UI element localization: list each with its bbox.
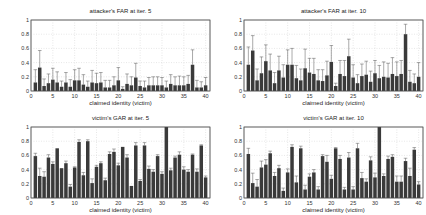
bar bbox=[156, 156, 159, 198]
x-tick-label: 25 bbox=[350, 200, 356, 206]
x-tick-label: 20 bbox=[328, 200, 334, 206]
y-tick-label: 0.4 bbox=[21, 60, 29, 66]
x-tick-label: 30 bbox=[372, 200, 378, 206]
bar bbox=[382, 77, 385, 91]
bar bbox=[138, 181, 141, 198]
bar bbox=[73, 80, 76, 91]
bar bbox=[143, 87, 146, 91]
y-tick-label: 0.6 bbox=[21, 152, 29, 158]
x-tick-label: 0 bbox=[242, 93, 245, 99]
x-tick-label: 0 bbox=[242, 200, 245, 206]
x-tick-label: 5 bbox=[51, 93, 54, 99]
bar bbox=[290, 147, 293, 198]
bar bbox=[316, 80, 319, 91]
bar bbox=[103, 87, 106, 91]
bar bbox=[200, 87, 203, 91]
chart-panel-gar-iter5: victim's GAR at iter. 500.20.40.60.81051… bbox=[0, 107, 213, 215]
x-tick-label: 25 bbox=[137, 93, 143, 99]
bar bbox=[386, 159, 389, 198]
bar bbox=[178, 85, 181, 91]
x-tick-label: 30 bbox=[372, 93, 378, 99]
bar bbox=[42, 86, 45, 91]
bar bbox=[264, 165, 267, 198]
bar bbox=[160, 85, 163, 91]
x-tick-label: 10 bbox=[72, 200, 78, 206]
bar bbox=[251, 183, 254, 198]
bar bbox=[316, 189, 319, 198]
bar bbox=[130, 85, 133, 91]
bar bbox=[295, 182, 298, 198]
chart-title: victim's GAR at iter. 10 bbox=[303, 115, 364, 121]
x-tick-label: 15 bbox=[93, 93, 99, 99]
bar bbox=[356, 83, 359, 91]
bar bbox=[125, 84, 128, 91]
bar bbox=[138, 86, 141, 91]
chart-panel-gar-iter10: victim's GAR at iter. 1000.20.40.60.8105… bbox=[213, 107, 426, 215]
x-tick-label: 15 bbox=[306, 93, 312, 99]
bar bbox=[95, 167, 98, 198]
bar bbox=[34, 156, 37, 198]
x-tick-label: 35 bbox=[394, 200, 400, 206]
bar bbox=[195, 172, 198, 198]
bar bbox=[373, 177, 376, 198]
bar bbox=[303, 68, 306, 91]
bar bbox=[112, 85, 115, 91]
x-tick-label: 15 bbox=[306, 200, 312, 206]
bar bbox=[255, 187, 258, 198]
bar bbox=[386, 78, 389, 91]
bar bbox=[64, 163, 67, 198]
bar bbox=[378, 127, 381, 198]
bar bbox=[151, 172, 154, 198]
y-tick-label: 1 bbox=[239, 17, 242, 23]
bar bbox=[165, 127, 168, 198]
bar bbox=[200, 145, 203, 198]
bar bbox=[338, 159, 341, 198]
bar bbox=[413, 150, 416, 198]
bar bbox=[130, 186, 133, 198]
bar bbox=[277, 70, 280, 91]
chart-svg: attacker's FAR at iter. 500.20.40.60.810… bbox=[0, 0, 213, 108]
bar bbox=[108, 154, 111, 198]
bar bbox=[77, 142, 80, 198]
bar bbox=[417, 185, 420, 198]
bar bbox=[404, 34, 407, 91]
bar bbox=[195, 87, 198, 91]
bar bbox=[312, 74, 315, 91]
bar bbox=[268, 70, 271, 91]
bar bbox=[156, 85, 159, 91]
chart-svg: victim's GAR at iter. 1000.20.40.60.8105… bbox=[213, 107, 426, 215]
bar bbox=[117, 165, 120, 198]
bar bbox=[360, 178, 363, 198]
bar bbox=[117, 80, 120, 91]
bar bbox=[86, 141, 89, 198]
bar bbox=[295, 78, 298, 91]
bar bbox=[169, 170, 172, 198]
x-tick-label: 5 bbox=[264, 200, 267, 206]
bar bbox=[60, 87, 63, 91]
bar bbox=[395, 76, 398, 91]
bar bbox=[182, 170, 185, 198]
bar bbox=[312, 172, 315, 198]
bar bbox=[391, 74, 394, 91]
bar bbox=[351, 189, 354, 198]
bar bbox=[299, 148, 302, 198]
chart-title: attacker's FAR at iter. 10 bbox=[301, 8, 367, 14]
x-tick-label: 10 bbox=[285, 200, 291, 206]
bar bbox=[399, 74, 402, 91]
bar bbox=[321, 81, 324, 91]
bar bbox=[191, 155, 194, 198]
x-tick-label: 5 bbox=[264, 93, 267, 99]
y-tick-label: 1 bbox=[26, 17, 29, 23]
bar bbox=[404, 161, 407, 198]
bar bbox=[330, 62, 333, 91]
y-tick-label: 0.8 bbox=[234, 31, 242, 37]
bar bbox=[86, 87, 89, 91]
y-tick-label: 0.2 bbox=[21, 181, 29, 187]
bar bbox=[69, 187, 72, 198]
bar bbox=[260, 73, 263, 91]
bar bbox=[121, 147, 124, 198]
bar bbox=[108, 87, 111, 91]
chart-title: attacker's FAR at iter. 5 bbox=[90, 8, 153, 14]
bar bbox=[82, 175, 85, 198]
bar bbox=[299, 80, 302, 91]
